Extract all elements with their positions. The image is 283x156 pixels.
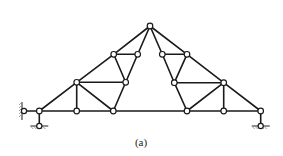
figure-caption: (a) — [126, 136, 156, 148]
joint-F — [258, 108, 264, 114]
joint-D — [184, 108, 190, 114]
support-pin-icon — [258, 123, 263, 128]
wall-hatch — [19, 106, 21, 108]
ground-hatch — [31, 127, 33, 129]
truss-supports — [19, 102, 270, 129]
ground-hatch — [253, 127, 255, 129]
ground-hatch — [256, 127, 258, 129]
joint-I — [172, 80, 178, 86]
joint-A — [37, 108, 43, 114]
ground-hatch — [43, 127, 45, 129]
joint-E — [221, 108, 227, 114]
joint-P — [147, 23, 153, 29]
joint-N — [184, 52, 190, 58]
truss-diagram — [0, 0, 283, 156]
truss-member-ID — [174, 83, 187, 111]
joint-G — [74, 80, 80, 86]
joint-H — [123, 80, 129, 86]
truss-member-GC — [77, 82, 114, 111]
joint-K — [111, 52, 117, 58]
support-pin-icon — [37, 123, 42, 128]
joint-J — [221, 80, 227, 86]
truss-member-NI — [174, 54, 187, 82]
wall-hatch — [19, 112, 21, 114]
wall-hatch — [19, 109, 21, 111]
ground-hatch — [265, 127, 267, 129]
truss-joints — [37, 23, 264, 114]
joint-B — [74, 108, 80, 114]
support-roller-icon — [21, 108, 26, 113]
truss-member-JD — [187, 83, 224, 111]
truss-member-MI — [162, 54, 174, 82]
wall-hatch — [19, 103, 21, 105]
truss-member-KH — [114, 54, 126, 82]
joint-M — [160, 52, 166, 58]
truss-member-AG — [39, 82, 76, 111]
joint-L — [135, 52, 141, 58]
truss-member-NJ — [187, 54, 224, 82]
truss-member-HC — [113, 82, 125, 111]
wall-hatch — [19, 115, 21, 117]
truss-member-LH — [126, 54, 138, 82]
ground-hatch — [34, 127, 36, 129]
truss-member-JF — [224, 83, 261, 111]
truss-member-GK — [77, 54, 114, 82]
truss-members — [39, 26, 260, 111]
joint-C — [111, 108, 117, 114]
